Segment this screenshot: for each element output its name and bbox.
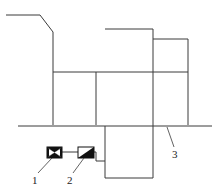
label-3: 3 (172, 148, 178, 160)
left-contour-line (6, 15, 53, 125)
actuator-symbol (78, 147, 94, 158)
label-1: 1 (32, 174, 38, 186)
top-contour-line (105, 29, 188, 125)
label-2: 2 (67, 174, 73, 186)
diagram-canvas: 1 2 3 (0, 0, 221, 193)
leader-line-2 (73, 158, 84, 173)
leader-line-1 (38, 158, 52, 173)
valve-symbol (47, 147, 62, 158)
lower-box (105, 126, 153, 178)
connection-line (94, 152, 105, 161)
leader-line-3 (167, 127, 174, 147)
